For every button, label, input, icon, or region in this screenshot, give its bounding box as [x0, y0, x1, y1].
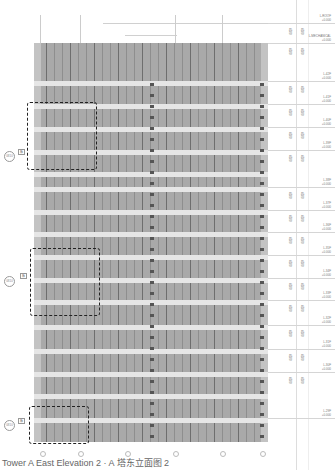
level-line — [268, 325, 335, 326]
mullion-line — [166, 43, 167, 442]
center-column-mark — [260, 402, 264, 405]
center-column-mark — [260, 336, 264, 339]
center-column-mark — [150, 149, 154, 152]
center-column-mark — [150, 160, 154, 163]
mullion-line — [198, 43, 199, 442]
dimension-chain-line — [308, 0, 309, 470]
level-line — [268, 232, 335, 233]
level-line — [268, 104, 335, 105]
dimension-text: 4500 — [288, 132, 291, 139]
level-label: L-37F+0.000 — [322, 201, 331, 209]
center-column-mark — [260, 116, 264, 119]
center-column-mark — [150, 402, 154, 405]
center-column-mark — [260, 105, 264, 108]
level-line — [268, 150, 335, 151]
level-label: L-38F+0.000 — [322, 178, 331, 186]
center-column-mark — [260, 127, 264, 130]
level-line — [268, 255, 335, 256]
center-column-mark — [150, 270, 154, 273]
center-column-mark — [150, 435, 154, 438]
mullion-line — [246, 43, 247, 442]
dimension-text: 4500 — [300, 237, 303, 244]
center-column-mark — [150, 281, 154, 284]
center-column-mark — [260, 248, 264, 251]
center-column-mark — [260, 424, 264, 427]
detail-box-upper — [27, 102, 97, 170]
center-column-mark — [150, 347, 154, 350]
center-column-mark — [260, 413, 264, 416]
level-line — [268, 43, 335, 44]
level-line — [268, 127, 335, 128]
callout-circle-icon: 0810 — [4, 151, 15, 162]
dimension-chain-line — [296, 0, 297, 470]
center-column-mark — [150, 380, 154, 383]
dimension-text: 4500 — [300, 48, 303, 55]
center-column-mark — [150, 259, 154, 262]
detail-box-middle — [30, 248, 100, 316]
level-label: L-39F+0.000 — [322, 141, 331, 149]
center-column-mark — [260, 138, 264, 141]
dimension-text: 4500 — [300, 305, 303, 312]
center-column-mark — [260, 215, 264, 218]
center-column-mark — [260, 380, 264, 383]
dimension-text: 4500 — [300, 354, 303, 361]
dimension-text: 4500 — [300, 109, 303, 116]
mullion-line — [206, 43, 207, 442]
callout-circle-icon: 0810 — [4, 276, 15, 287]
dimension-text: 4500 — [300, 86, 303, 93]
dimension-text: 4500 — [288, 215, 291, 222]
dimension-text: 4500 — [300, 283, 303, 290]
level-line — [268, 81, 335, 82]
center-column-mark — [150, 248, 154, 251]
dimension-text: 4500 — [300, 132, 303, 139]
center-column-mark — [260, 149, 264, 152]
center-column-mark — [150, 226, 154, 229]
top-grid-tick — [222, 15, 223, 43]
mullion-line — [230, 43, 231, 442]
center-column-mark — [150, 138, 154, 141]
dimension-text: 4500 — [288, 283, 291, 290]
center-column-mark — [260, 171, 264, 174]
grid-marker-icon — [220, 451, 226, 457]
callout-tag: 板 — [18, 418, 25, 424]
top-dimension-line — [125, 35, 177, 36]
center-column-mark — [260, 391, 264, 394]
dimension-text: 4500 — [288, 109, 291, 116]
top-grid-tick — [175, 15, 176, 43]
mullion-line — [142, 43, 143, 442]
level-label: L-33F+0.000 — [322, 291, 331, 299]
spandrel-band — [34, 187, 268, 192]
mullion-line — [174, 43, 175, 442]
center-column-mark — [150, 204, 154, 207]
level-label: L-40F+0.000 — [322, 118, 331, 126]
dimension-text: 4500 — [288, 354, 291, 361]
center-column-mark — [150, 182, 154, 185]
level-label: L-32F+0.000 — [322, 316, 331, 324]
grid-marker-icon — [260, 451, 266, 457]
center-column-mark — [260, 83, 264, 86]
dimension-text: 4500 — [300, 155, 303, 162]
center-column-mark — [260, 358, 264, 361]
dimension-text: 4500 — [288, 86, 291, 93]
center-column-mark — [150, 424, 154, 427]
mullion-line — [158, 43, 159, 442]
top-grid-tick — [40, 15, 41, 43]
level-line — [268, 372, 335, 373]
level-line — [268, 23, 335, 24]
mullion-line — [238, 43, 239, 442]
dimension-text: 4500 — [288, 260, 291, 267]
callout-tag: 板 — [20, 273, 27, 279]
level-label: L-31F+0.000 — [322, 340, 331, 348]
level-label: L-ROOF+0.000 — [320, 14, 331, 22]
center-column-mark — [150, 336, 154, 339]
dimension-text: 4500 — [300, 260, 303, 267]
mullion-line — [110, 43, 111, 442]
center-column-mark — [150, 127, 154, 130]
mullion-line — [182, 43, 183, 442]
dimension-text: 4500 — [300, 377, 303, 384]
level-line — [268, 418, 335, 419]
top-dimension-line — [103, 23, 268, 24]
detail-box-lower — [29, 406, 89, 444]
center-column-mark — [150, 314, 154, 317]
dimension-text: 4500 — [300, 330, 303, 337]
